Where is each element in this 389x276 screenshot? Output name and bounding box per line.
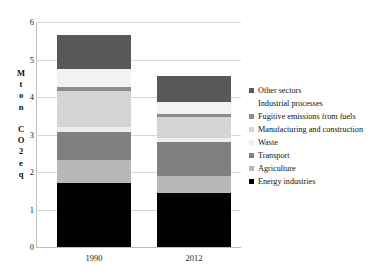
y-axis-tick-labels: 0123456	[6, 22, 34, 248]
legend-label: Waste	[258, 138, 278, 147]
legend-label: Fugitive emissions from fuels	[258, 112, 356, 121]
legend-label: Agriculture	[258, 164, 296, 173]
legend-swatch-icon	[249, 166, 254, 171]
bar-segment	[157, 76, 231, 102]
legend-item[interactable]: Transport	[249, 149, 389, 162]
bar-segment	[157, 102, 231, 114]
y-axis-tick-label: 3	[10, 131, 34, 140]
legend: Other sectorsIndustrial processesFugitiv…	[249, 84, 389, 188]
bar-segment	[57, 91, 131, 127]
legend-item[interactable]: Energy industries	[249, 175, 389, 188]
y-axis-tick-label: 5	[10, 56, 34, 65]
legend-item[interactable]: Fugitive emissions from fuels	[249, 110, 389, 123]
bar-segment	[157, 117, 231, 137]
legend-label: Energy industries	[258, 177, 315, 186]
legend-item[interactable]: Other sectors	[249, 84, 389, 97]
bar-segment	[57, 87, 131, 91]
legend-swatch-icon	[249, 140, 254, 145]
bar-segment	[57, 132, 131, 161]
legend-swatch-icon	[249, 153, 254, 158]
legend-label: Transport	[258, 151, 290, 160]
bar-1990	[57, 22, 131, 247]
stacked-bar-chart: Mton CO2eq 0123456 19902012 Other sector…	[0, 0, 389, 276]
legend-label: Industrial processes	[258, 99, 323, 108]
legend-item[interactable]: Waste	[249, 136, 389, 149]
x-axis-tick-label: 2012	[154, 253, 234, 263]
bar-segment	[57, 69, 131, 87]
bar-segment	[157, 193, 231, 247]
legend-swatch-icon	[249, 88, 254, 93]
plot-area	[36, 22, 241, 247]
legend-swatch-icon	[249, 127, 254, 132]
bar-segment	[157, 138, 231, 143]
legend-item[interactable]: Industrial processes	[249, 97, 389, 110]
bar-segment	[57, 127, 131, 132]
legend-swatch-icon	[249, 114, 254, 119]
legend-item[interactable]: Agriculture	[249, 162, 389, 175]
legend-item[interactable]: Manufacturing and construction	[249, 123, 389, 136]
x-axis-tick-label: 1990	[54, 253, 134, 263]
bar-segment	[57, 35, 131, 69]
legend-swatch-icon	[249, 179, 254, 184]
legend-swatch-icon	[249, 101, 254, 106]
bar-segment	[57, 183, 131, 247]
legend-label: Other sectors	[258, 86, 301, 95]
y-axis-tick-label: 4	[10, 93, 34, 102]
y-axis-tick-label: 0	[10, 243, 34, 252]
bar-segment	[157, 142, 231, 176]
y-axis-tick-label: 1	[10, 206, 34, 215]
y-axis-tick-label: 6	[10, 18, 34, 27]
bar-segment	[57, 160, 131, 183]
bar-2012	[157, 22, 231, 247]
y-axis-tick-label: 2	[10, 168, 34, 177]
x-axis-line	[36, 247, 241, 248]
bar-segment	[157, 114, 231, 117]
bar-segment	[157, 176, 231, 193]
legend-label: Manufacturing and construction	[258, 125, 363, 134]
